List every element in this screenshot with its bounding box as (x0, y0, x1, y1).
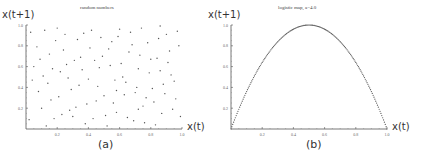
data-point (49, 53, 50, 54)
data-point (272, 47, 273, 48)
data-point (114, 79, 115, 80)
data-point (243, 99, 244, 100)
data-point (178, 45, 179, 46)
data-point (251, 80, 252, 81)
data-point (80, 57, 81, 58)
data-point (239, 107, 240, 108)
data-point (361, 72, 362, 73)
data-point (269, 52, 270, 53)
data-point (164, 93, 165, 94)
data-point (273, 46, 274, 47)
data-point (161, 113, 162, 114)
data-point (231, 126, 232, 127)
data-point (264, 58, 265, 59)
data-point (260, 65, 261, 66)
data-point (262, 60, 263, 61)
data-point (236, 113, 237, 114)
data-point (372, 93, 373, 94)
data-point (91, 30, 92, 31)
data-point (277, 41, 278, 42)
data-point (152, 88, 153, 89)
y-tick-label: 0.4 (18, 85, 23, 90)
data-point (61, 114, 62, 115)
data-point (275, 44, 276, 45)
data-point (384, 122, 385, 123)
data-point (174, 80, 175, 81)
x-tick-label: 0.4 (291, 132, 296, 137)
data-point (113, 102, 114, 103)
data-point (278, 40, 279, 41)
data-point (373, 95, 374, 96)
data-point (64, 34, 65, 35)
data-point (97, 86, 98, 87)
data-point (259, 66, 260, 67)
data-point (263, 59, 264, 60)
x-tick-label: 0.6 (322, 132, 327, 137)
data-point (69, 110, 70, 111)
data-point (269, 50, 270, 51)
data-point (233, 122, 234, 123)
data-point (141, 27, 142, 28)
data-point (142, 105, 143, 106)
data-point (102, 56, 103, 57)
data-point (159, 70, 160, 71)
data-point (71, 89, 72, 90)
data-point (256, 71, 257, 72)
data-point (351, 55, 352, 56)
data-point (362, 74, 363, 75)
data-point (57, 27, 58, 28)
data-point (47, 83, 48, 84)
data-point (356, 63, 357, 64)
data-point (249, 86, 250, 87)
data-point (247, 89, 248, 90)
x-tick-label: 1.0 (385, 132, 390, 137)
data-point (28, 119, 29, 120)
data-point (111, 41, 112, 42)
x-axis-label-a: x(t) (187, 121, 205, 132)
data-point (60, 71, 61, 72)
data-point (158, 38, 159, 39)
data-point (373, 97, 374, 98)
data-point (337, 38, 338, 39)
data-point (380, 113, 381, 114)
data-point (385, 124, 386, 125)
data-point (383, 119, 384, 120)
x-axis-label-b: x(t) (392, 121, 410, 132)
x-tick-label: 0.2 (260, 132, 265, 137)
data-point (271, 48, 272, 49)
data-point (138, 109, 139, 110)
data-point (135, 92, 136, 93)
data-point (360, 69, 361, 70)
data-point (106, 125, 107, 126)
data-point (366, 80, 367, 81)
data-point (30, 32, 31, 33)
data-point (230, 128, 231, 129)
data-point (116, 90, 117, 91)
data-point (72, 116, 73, 117)
data-point (144, 122, 145, 123)
data-point (78, 85, 79, 86)
data-point (86, 103, 87, 104)
data-point (352, 56, 353, 57)
data-point (159, 25, 160, 26)
data-point (153, 101, 154, 102)
data-point (128, 51, 129, 52)
data-point (255, 74, 256, 75)
data-point (44, 30, 45, 31)
data-point (342, 44, 343, 45)
data-point (85, 123, 86, 124)
data-point (169, 50, 170, 51)
scatter-plot-a: 0.20.40.60.81.00.20.40.60.81.0 (0, 0, 210, 155)
data-point (50, 99, 51, 100)
data-point (354, 60, 355, 61)
data-point (166, 34, 167, 35)
data-point (365, 79, 366, 80)
data-point (42, 75, 43, 76)
data-point (236, 115, 237, 116)
data-point (253, 77, 254, 78)
data-point (378, 107, 379, 108)
y-tick-label: 0.2 (223, 106, 228, 111)
data-point (177, 31, 178, 32)
data-point (33, 66, 34, 67)
data-point (376, 103, 377, 104)
